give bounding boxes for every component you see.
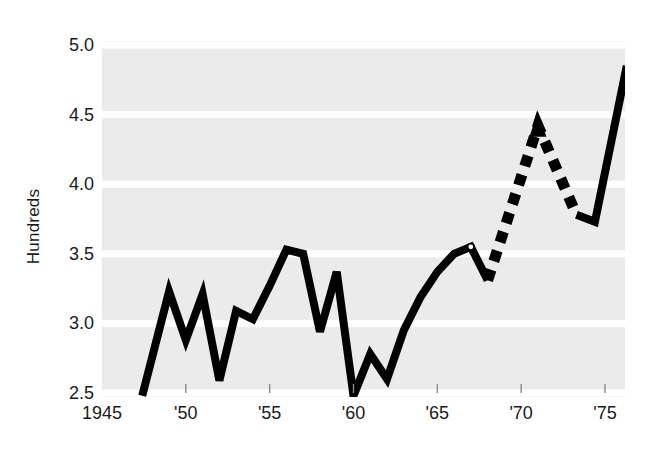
x-tick-label-65: '65 xyxy=(426,404,449,422)
chart-figure: Hundreds 2.53.03.54.04.55.0 1945'50'55'6… xyxy=(0,0,647,453)
x-tick-label-55: '55 xyxy=(258,404,281,422)
gridline-y-4.5 xyxy=(102,111,625,118)
gridlines xyxy=(102,42,625,397)
x-tick-label-75: '75 xyxy=(593,404,616,422)
gridline-y-3.5 xyxy=(102,250,625,257)
x-tick-label-50: '50 xyxy=(174,404,197,422)
series-solid-resume xyxy=(576,66,625,222)
plot-area xyxy=(102,41,625,397)
x-tick-label-70: '70 xyxy=(509,404,532,422)
gridline-y-5.0 xyxy=(102,42,625,49)
x-tick-label-1945: 1945 xyxy=(82,404,122,422)
gridline-y-4.0 xyxy=(102,181,625,188)
open-circle-marker xyxy=(468,244,474,250)
gridline-y-2.5 xyxy=(102,390,625,397)
x-tick-label-60: '60 xyxy=(342,404,365,422)
line-chart-svg xyxy=(102,41,625,397)
marker-layer xyxy=(468,244,474,250)
